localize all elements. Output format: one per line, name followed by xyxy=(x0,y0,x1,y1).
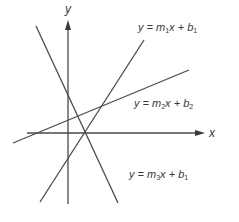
eq-mid: x + b xyxy=(160,168,184,180)
line-3-equation: y = m3x + b1 xyxy=(129,169,188,181)
x-axis-arrow-icon xyxy=(195,130,205,136)
intercept-subscript: 1 xyxy=(193,27,197,34)
line-3 xyxy=(36,26,118,203)
y-axis-label: y xyxy=(65,3,71,15)
x-axis-label: x xyxy=(209,127,215,139)
eq-prefix: y = m xyxy=(129,168,156,180)
coordinate-diagram xyxy=(0,0,239,222)
intercept-subscript: 1 xyxy=(184,174,188,181)
eq-mid: x + b xyxy=(169,21,193,33)
y-axis-arrow-icon xyxy=(65,20,71,30)
line-1-equation: y = m1x + b1 xyxy=(138,22,197,34)
eq-prefix: y = m xyxy=(138,21,165,33)
line-2-equation: y = m2x + b2 xyxy=(134,98,193,110)
eq-prefix: y = m xyxy=(134,97,161,109)
intercept-subscript: 2 xyxy=(189,103,193,110)
eq-mid: x + b xyxy=(165,97,189,109)
